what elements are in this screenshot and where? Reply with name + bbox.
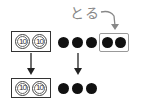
one-dot [72, 83, 83, 94]
bottom-tens-box: 10 10 [11, 78, 51, 98]
top-tens-box: 10 10 [11, 31, 51, 52]
taken-dot [102, 37, 113, 48]
one-dot [58, 37, 69, 48]
curved-take-arrowhead-icon [111, 24, 119, 30]
ten-coin: 10 [15, 81, 30, 96]
ten-coin: 10 [32, 81, 47, 96]
one-dot [86, 37, 97, 48]
one-dot [58, 83, 69, 94]
ten-coin: 10 [32, 34, 47, 49]
taken-dot [115, 37, 126, 48]
one-dot [72, 37, 83, 48]
ten-coin: 10 [15, 34, 30, 49]
one-dot [86, 83, 97, 94]
curved-take-arrow-icon [101, 12, 115, 27]
